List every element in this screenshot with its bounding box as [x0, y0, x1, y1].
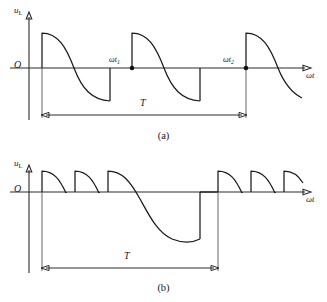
panel-b: uL O ωt T (b)	[0, 151, 327, 302]
x-axis-label-a: ωt	[306, 71, 314, 80]
marker-label-wt2: ωt2	[223, 56, 234, 64]
period-label-a: T	[140, 98, 146, 108]
period-drop-lines-b	[42, 192, 218, 271]
marker-label-wt1: ωt1	[109, 56, 120, 64]
caption-a: (a)	[0, 130, 327, 141]
y-axis-label-a: uL	[14, 6, 22, 15]
origin-label-a: O	[14, 60, 21, 70]
waveform-b-trace	[42, 171, 303, 242]
period-drop-lines-a	[42, 68, 246, 118]
x-axis-label-b: ωt	[306, 195, 314, 204]
y-axis-label-b: uL	[14, 159, 22, 168]
waveform-a-plot	[0, 0, 327, 151]
period-arrow-b	[41, 265, 219, 270]
panel-a: uL O ωt ωt1 ωt2 T (a)	[0, 0, 327, 151]
waveform-b-plot	[0, 151, 327, 302]
origin-label-b: O	[14, 184, 21, 194]
x-axis-a	[10, 65, 311, 70]
y-axis-b	[26, 165, 32, 273]
marker-dot-wt2	[244, 66, 249, 71]
y-axis-a	[26, 12, 32, 120]
marker-dot-wt1	[130, 66, 135, 71]
waveform-figure: uL O ωt ωt1 ωt2 T (a)	[0, 0, 327, 302]
period-label-b: T	[124, 251, 130, 261]
x-axis-b	[10, 189, 311, 194]
period-arrow-a	[41, 112, 247, 117]
waveform-a-trace	[42, 33, 302, 101]
caption-b: (b)	[0, 282, 327, 293]
